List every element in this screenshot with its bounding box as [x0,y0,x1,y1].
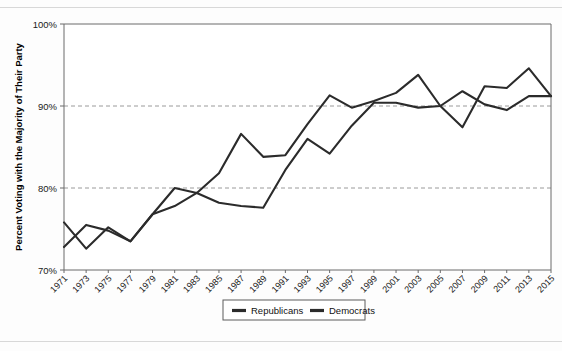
x-tick-label-1999: 1999 [358,273,379,294]
x-tick-label-2005: 2005 [424,273,445,294]
y-tick-label-100: 100% [33,19,58,30]
chart-legend: Republicans Democrats [223,300,375,320]
x-tick-label-1997: 1997 [336,273,357,294]
x-tick-label-1973: 1973 [70,273,91,294]
x-tick-label-1979: 1979 [137,273,158,294]
x-tick-label-1991: 1991 [270,273,291,294]
x-tick-label-1983: 1983 [181,273,202,294]
chart-page: 70%80%90%100% 19711973197519771979198119… [0,0,562,351]
x-tick-label-1987: 1987 [225,273,246,294]
x-tick-label-2013: 2013 [513,273,534,294]
x-tick-label-1977: 1977 [115,273,136,294]
chart-svg: 70%80%90%100% 19711973197519771979198119… [0,0,562,351]
legend-label-democrats[interactable]: Democrats [329,305,375,316]
x-tick-label-1993: 1993 [292,273,313,294]
y-axis: 70%80%90%100% [33,19,64,276]
x-tick-label-1985: 1985 [203,273,224,294]
legend-label-republicans[interactable]: Republicans [251,305,304,316]
x-tick-label-2011: 2011 [491,273,512,294]
x-tick-label-1995: 1995 [314,273,335,294]
x-tick-label-1971: 1971 [48,273,69,294]
y-tick-label-90: 90% [38,101,58,112]
x-tick-label-2001: 2001 [380,273,401,294]
x-tick-label-2007: 2007 [447,273,468,294]
y-axis-title: Percent Voting with the Majority of Thei… [13,42,24,251]
x-axis: 1971197319751977197919811983198519871989… [48,270,556,295]
line-chart: 70%80%90%100% 19711973197519771979198119… [0,0,562,351]
y-tick-label-80: 80% [38,183,58,194]
y-tick-label-70: 70% [38,265,58,276]
x-tick-label-2009: 2009 [469,273,490,294]
x-tick-label-2003: 2003 [402,273,423,294]
x-tick-label-1981: 1981 [159,273,180,294]
x-tick-label-2015: 2015 [535,273,556,294]
x-tick-label-1989: 1989 [247,273,268,294]
x-tick-label-1975: 1975 [92,273,113,294]
